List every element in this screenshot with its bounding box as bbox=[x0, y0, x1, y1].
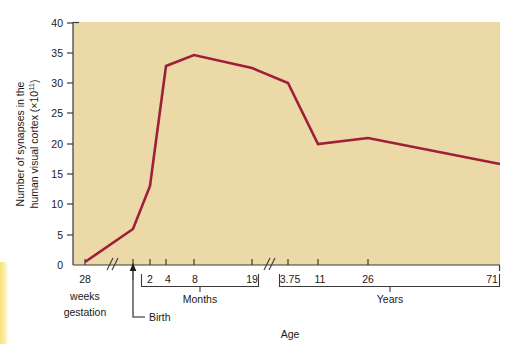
y-tick-label-35: 35 bbox=[51, 47, 63, 59]
birth-marker: Birth bbox=[130, 263, 171, 323]
x-tick-label-11-years: 11 bbox=[315, 273, 326, 285]
y-axis-title-exponent: 11 bbox=[27, 83, 36, 91]
y-tick-label-25: 25 bbox=[51, 107, 63, 119]
years-group-bracket bbox=[279, 274, 500, 292]
x-tick-label-2-months: 2 bbox=[147, 273, 153, 285]
x-tick-label-71-years: 71 bbox=[486, 273, 498, 285]
synapse-density-figure: 40 35 30 25 20 15 10 5 0 Number of synap… bbox=[0, 0, 524, 344]
y-axis-title-line2-prefix: human visual cortex (×10 bbox=[28, 91, 40, 209]
x-tick-label-19-months: 19 bbox=[246, 273, 258, 285]
months-group-bracket bbox=[141, 274, 259, 292]
y-axis-title: Number of synapses in the human visual c… bbox=[14, 80, 40, 209]
y-axis-title-suffix: ) bbox=[28, 80, 40, 84]
plot-background bbox=[73, 22, 500, 265]
y-axis-title-line1: Number of synapses in the bbox=[14, 81, 26, 206]
x-tick-label-8-months: 8 bbox=[192, 273, 198, 285]
y-tick-label-10: 10 bbox=[51, 198, 63, 210]
x-tick-label-28: 28 bbox=[79, 273, 91, 285]
y-axis-title-line2: human visual cortex (×1011) bbox=[27, 80, 40, 209]
y-axis-tick-labels: 40 35 30 25 20 15 10 5 0 bbox=[51, 17, 63, 271]
chart-svg: 40 35 30 25 20 15 10 5 0 Number of synap… bbox=[0, 0, 524, 344]
gestation-label-line2: gestation bbox=[64, 306, 107, 318]
birth-label: Birth bbox=[149, 311, 171, 323]
x-tick-label-4-months: 4 bbox=[165, 273, 171, 285]
x-tick-label-26-years: 26 bbox=[362, 273, 374, 285]
x-tick-label-3-75-years: 3.75 bbox=[280, 273, 301, 285]
y-tick-label-30: 30 bbox=[51, 77, 63, 89]
gestation-label-line1: weeks bbox=[69, 290, 100, 302]
x-axis-title: Age bbox=[281, 328, 300, 340]
months-group-label: Months bbox=[183, 293, 217, 305]
y-tick-label-0: 0 bbox=[57, 259, 63, 271]
page-edge-accent-band bbox=[0, 262, 8, 344]
y-tick-label-15: 15 bbox=[51, 168, 63, 180]
birth-leader-line bbox=[133, 280, 145, 317]
years-group-label: Years bbox=[377, 293, 403, 305]
y-tick-label-5: 5 bbox=[57, 229, 63, 241]
y-tick-label-40: 40 bbox=[51, 17, 63, 29]
y-axis-ticks bbox=[67, 23, 73, 235]
y-tick-label-20: 20 bbox=[51, 138, 63, 150]
